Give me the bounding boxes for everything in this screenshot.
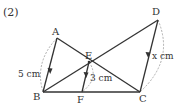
point-label-a: A xyxy=(51,26,60,37)
geometry-diagram: (2) A B C D E F 5 cm 3 cm x cm xyxy=(0,0,183,111)
arrow-mark-ef xyxy=(84,72,89,78)
measure-label-dc: x cm xyxy=(152,51,174,61)
point-label-c: C xyxy=(139,93,147,104)
segment-ac xyxy=(57,38,140,92)
measure-label-ab: 5 cm xyxy=(18,69,41,79)
problem-number: (2) xyxy=(3,6,19,19)
point-label-b: B xyxy=(33,91,40,102)
point-label-d: D xyxy=(152,6,160,17)
measure-label-ef: 3 cm xyxy=(90,73,113,83)
point-e-dot xyxy=(88,61,91,64)
point-label-f: F xyxy=(77,94,84,105)
point-label-e: E xyxy=(85,50,92,61)
